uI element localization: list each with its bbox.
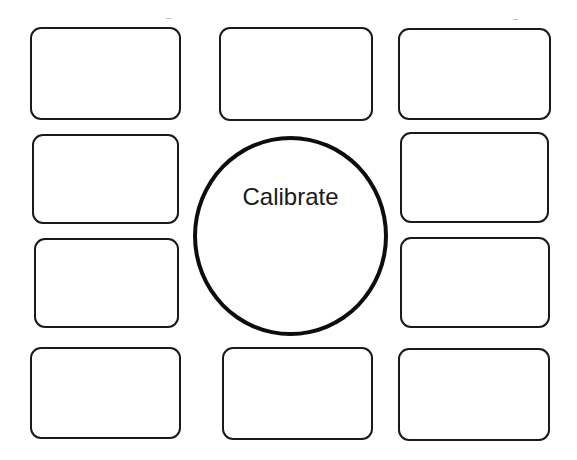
box-mid-upper-right — [400, 132, 549, 223]
box-bottom-left — [30, 347, 181, 439]
box-top-left — [30, 27, 181, 120]
stray-mark — [513, 19, 518, 20]
box-mid-lower-right — [400, 237, 550, 328]
box-mid-lower-left — [34, 238, 179, 328]
circle-label: Calibrate — [197, 183, 384, 211]
box-bottom-center — [222, 347, 373, 440]
center-circle: Calibrate — [193, 136, 388, 336]
stray-mark — [166, 18, 171, 19]
box-top-right — [398, 28, 551, 120]
box-bottom-right — [398, 348, 550, 441]
box-mid-upper-left — [32, 134, 179, 224]
box-top-center — [219, 27, 373, 121]
